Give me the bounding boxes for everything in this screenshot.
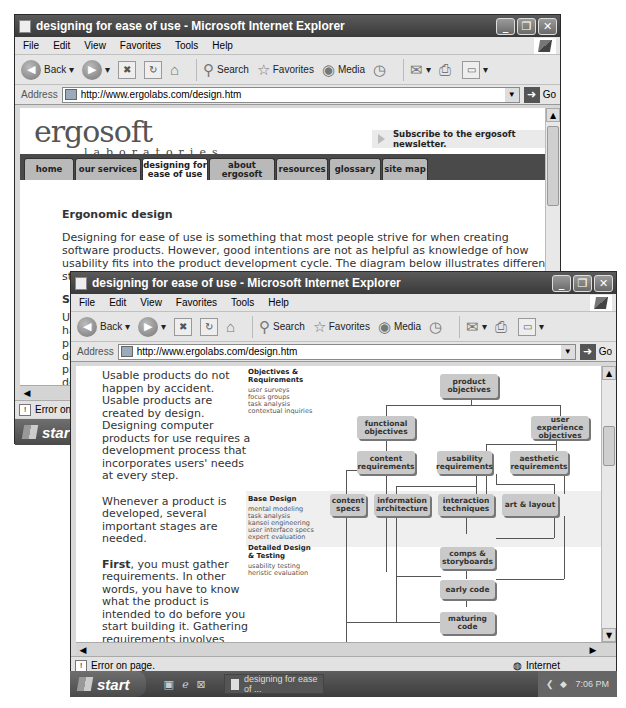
home-button[interactable]: ⌂ [226,318,238,335]
refresh-button[interactable]: ↻ [200,318,218,336]
mail-button[interactable]: ✉▾ [410,61,431,79]
scroll-down-icon[interactable]: ▼ [602,628,616,642]
history-icon: ◷ [373,61,386,79]
windows-flag-icon [22,425,38,439]
tray-expand-icon[interactable]: ❮ [546,679,554,689]
scroll-up-icon[interactable]: ▲ [602,366,616,380]
stop-button[interactable]: ✖ [174,318,192,336]
home-button[interactable]: ⌂ [170,61,182,78]
nav-about[interactable]: about ergosoft [209,158,275,180]
media-button[interactable]: ◉Media [322,61,365,79]
forward-button[interactable]: ▶▾ [138,317,166,337]
nav-our-services[interactable]: our services [75,158,141,180]
edit-button[interactable]: ▭ ▾ [518,318,544,336]
print-button[interactable]: ⎙ [495,318,510,336]
scroll-thumb[interactable] [547,126,559,206]
box-early-code: early code [440,580,495,599]
horizontal-scrollbar[interactable]: ◀ ▶ [76,642,616,656]
nav-home[interactable]: home [24,158,74,180]
menu-edit[interactable]: Edit [109,297,126,308]
stage-objectives: Objectives & Requirements user surveys f… [248,368,328,415]
refresh-button[interactable]: ↻ [144,61,162,79]
scroll-thumb[interactable] [603,426,615,466]
history-button[interactable]: ◷ [429,318,445,336]
menu-tools[interactable]: Tools [231,297,254,308]
history-button[interactable]: ◷ [373,61,389,79]
home-icon: ⌂ [226,318,235,335]
nav-designing[interactable]: designing for ease of use [142,158,208,180]
intro-paragraph-2: Whenever a product is developed, several… [102,496,252,546]
nav-site-map[interactable]: site map [382,158,428,180]
restore-button[interactable]: ❐ [517,18,536,35]
tray-network-icon[interactable]: ◆ [560,679,567,689]
print-button[interactable]: ⎙ [439,61,454,79]
menu-tools[interactable]: Tools [175,40,198,51]
back-button[interactable]: ◀Back ▾ [21,60,74,80]
nav-resources[interactable]: resources [276,158,328,180]
edit-icon: ▭ [518,318,536,336]
edit-button[interactable]: ▭ ▾ [462,61,488,79]
chevron-down-icon[interactable]: ▼ [505,88,519,102]
menu-bar: File Edit View Favorites Tools Help [15,37,560,55]
address-input[interactable]: http://www.ergolabs.com/design.htm ▼ [62,87,520,103]
newsletter-link[interactable]: Subscribe to the ergosoft newsletter. [372,130,554,148]
menu-file[interactable]: File [23,40,39,51]
menu-view[interactable]: View [84,40,106,51]
minimize-button[interactable]: _ [552,275,571,292]
quicklaunch-desktop-icon[interactable]: ▣ [164,678,174,691]
mail-button[interactable]: ✉▾ [466,318,487,336]
media-button[interactable]: ◉Media [378,318,421,336]
printer-icon: ⎙ [439,61,451,79]
menu-help[interactable]: Help [268,297,289,308]
back-button[interactable]: ◀Back ▾ [77,317,130,337]
search-button[interactable]: ⚲Search [259,318,305,336]
menu-view[interactable]: View [140,297,162,308]
box-interaction-techniques: interaction techniques [438,494,494,516]
media-icon: ◉ [378,318,391,336]
ie-page-icon [231,679,239,690]
nav-glossary[interactable]: glossary [329,158,381,180]
go-button[interactable]: ➜Go [580,344,612,360]
favorites-button[interactable]: ☆Favorites [313,318,370,336]
menu-favorites[interactable]: Favorites [176,297,217,308]
quicklaunch-media-icon[interactable]: ⊠ [196,678,205,691]
page-icon [65,89,77,100]
quicklaunch-ie-icon[interactable]: ℯ [182,678,189,691]
menu-file[interactable]: File [79,297,95,308]
stop-button[interactable]: ✖ [118,61,136,79]
favorites-button[interactable]: ☆Favorites [257,61,314,79]
box-ux-objectives: user experience objectives [531,416,589,439]
close-button[interactable]: ✕ [594,275,613,292]
ergosoft-logo[interactable]: ergosoft [34,114,152,149]
go-button[interactable]: ➜Go [524,87,556,103]
box-usability-requirements: usability requirements [437,451,492,474]
menu-edit[interactable]: Edit [53,40,70,51]
taskbar: start ▣ ℯ ⊠ designing for ease of ... ❮ … [70,671,617,697]
chevron-down-icon[interactable]: ▼ [561,345,575,359]
ie-page-icon [19,20,31,33]
menu-help[interactable]: Help [212,40,233,51]
forward-arrow-icon: ▶ [138,317,158,337]
forward-button[interactable]: ▶▾ [82,60,110,80]
taskbar-item[interactable]: designing for ease of ... [224,674,324,694]
scroll-up-icon[interactable]: ▲ [546,108,560,122]
search-button[interactable]: ⚲Search [203,61,249,79]
menu-favorites[interactable]: Favorites [120,40,161,51]
address-input[interactable]: http://www.ergolabs.com/design.htm ▼ [118,344,576,360]
scroll-left-icon[interactable]: ◀ [20,386,34,399]
close-button[interactable]: ✕ [538,18,557,35]
box-information-architecture: information architecture [374,494,430,516]
title-bar[interactable]: designing for ease of use - Microsoft In… [71,272,616,294]
error-icon[interactable]: ! [75,660,87,672]
clock[interactable]: 7:06 PM [575,679,609,689]
scroll-right-icon[interactable]: ▶ [586,643,600,656]
error-icon[interactable]: ! [19,404,31,416]
title-bar[interactable]: designing for ease of use - Microsoft In… [15,15,560,37]
start-button[interactable]: start [70,671,146,697]
restore-button[interactable]: ❐ [573,275,592,292]
toolbar: ◀Back ▾ ▶▾ ✖ ↻ ⌂ ⚲Search ☆Favorites ◉Med… [71,312,616,342]
box-maturing-code: maturing code [440,612,495,634]
minimize-button[interactable]: _ [496,18,515,35]
scroll-left-icon[interactable]: ◀ [76,643,90,656]
vertical-scrollbar[interactable]: ▲ ▼ [601,366,616,642]
